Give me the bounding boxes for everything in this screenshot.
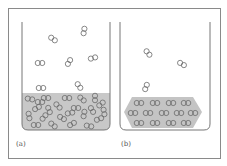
figure-canvas	[0, 0, 227, 166]
panel-a-label: (a)	[16, 140, 26, 148]
figure-frame	[9, 9, 221, 159]
panel-b-label: (b)	[121, 140, 131, 148]
